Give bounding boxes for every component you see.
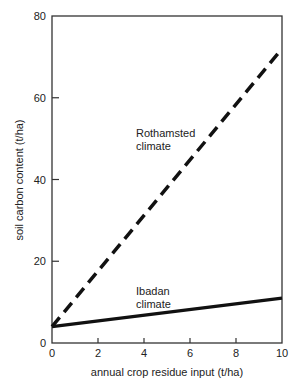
ibadan-label-line1: Ibadan xyxy=(136,285,170,297)
x-axis-title: annual crop residue input (t/ha) xyxy=(91,366,243,378)
rothamsted-label-line1: Rothamsted xyxy=(136,127,195,139)
y-tick-label: 0 xyxy=(40,337,46,349)
ibadan-label-line2: climate xyxy=(136,298,171,310)
x-tick-label: 6 xyxy=(187,347,193,359)
x-axis-ticks: 0246810 xyxy=(49,338,288,359)
y-tick-label: 60 xyxy=(34,92,46,104)
x-tick-label: 8 xyxy=(233,347,239,359)
x-tick-label: 10 xyxy=(276,347,288,359)
x-tick-label: 2 xyxy=(95,347,101,359)
rothamsted-label-line2: climate xyxy=(136,140,171,152)
y-axis-ticks: 020406080 xyxy=(34,10,59,349)
x-tick-label: 0 xyxy=(49,347,55,359)
x-tick-label: 4 xyxy=(141,347,147,359)
y-tick-label: 40 xyxy=(34,174,46,186)
y-axis-title: soil carbon content (t/ha) xyxy=(13,119,25,240)
y-tick-label: 80 xyxy=(34,10,46,22)
line-chart: 0246810 020406080 annual crop residue in… xyxy=(0,0,305,387)
y-tick-label: 20 xyxy=(34,255,46,267)
